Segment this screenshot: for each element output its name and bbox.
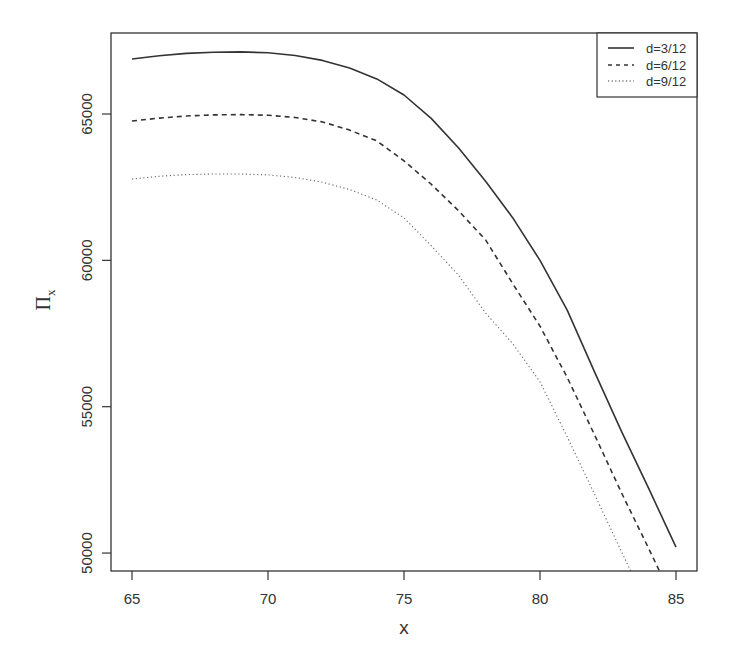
x-tick-label: 70 (260, 590, 277, 607)
plot-frame (111, 33, 697, 571)
svg-text:Πx: Πx (32, 289, 58, 310)
y-tick-label: 60000 (78, 239, 95, 281)
y-axis-label-sub: x (43, 289, 58, 296)
x-tick-label: 75 (396, 590, 413, 607)
line-chart: 6570758085 50000550006000065000 x Πx d=3… (0, 0, 731, 664)
legend-label: d=6/12 (646, 58, 686, 73)
y-axis-label: Πx (32, 289, 58, 310)
series-line-2 (132, 115, 676, 606)
y-tick-label: 65000 (78, 93, 95, 135)
x-axis-label: x (399, 617, 409, 638)
x-axis: 6570758085 (124, 571, 685, 607)
x-tick-label: 80 (532, 590, 549, 607)
legend-label: d=3/12 (646, 41, 686, 56)
series-line-1 (132, 52, 676, 547)
legend-label: d=9/12 (646, 74, 686, 89)
x-tick-label: 65 (124, 590, 141, 607)
y-tick-label: 55000 (78, 386, 95, 428)
x-tick-label: 85 (668, 590, 685, 607)
legend: d=3/12d=6/12d=9/12 (597, 33, 697, 97)
y-axis: 50000550006000065000 (78, 93, 111, 574)
y-tick-label: 50000 (78, 532, 95, 574)
y-axis-label-main: Π (32, 296, 54, 310)
